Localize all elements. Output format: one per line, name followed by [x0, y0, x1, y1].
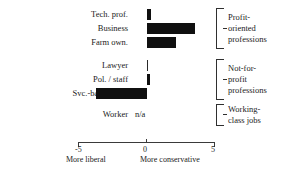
- x-tick-label-zero: 0: [143, 145, 147, 154]
- bar-track: [78, 73, 215, 86]
- group-label-line: Not-for-: [228, 63, 267, 74]
- bar-tech-prof: [147, 9, 151, 20]
- bar-track: [78, 59, 215, 72]
- bar-lawyer: [147, 60, 148, 71]
- bar-track: [78, 8, 215, 21]
- axis-caption-conservative: More conservative: [140, 155, 200, 164]
- chart-figure: Tech. prof. Business Farm own. Lawyer Po…: [0, 0, 285, 175]
- group-label-profit-oriented: Profit- oriented professions: [228, 12, 267, 45]
- group-label-line: class jobs: [228, 115, 261, 126]
- bar-svc-based-prof: [96, 88, 147, 99]
- axis-caption-liberal: More liberal: [66, 155, 106, 164]
- group-label-working-class: Working- class jobs: [228, 104, 261, 126]
- bar-business: [147, 23, 195, 34]
- group-label-line: Working-: [228, 104, 261, 115]
- bar-pol-staff: [147, 74, 150, 85]
- bar-track: n/a: [78, 108, 215, 121]
- group-label-line: oriented: [228, 23, 267, 34]
- value-na-label: n/a: [135, 108, 145, 121]
- brace-tip-not-for-profit: [223, 79, 227, 80]
- group-label-line: profit: [228, 74, 267, 85]
- brace-tip-working-class: [223, 114, 227, 115]
- bar-track: [78, 87, 215, 100]
- group-label-line: Profit-: [228, 12, 267, 23]
- x-tick-label-min: -5: [75, 145, 82, 154]
- group-label-not-for-profit: Not-for- profit professions: [228, 63, 267, 96]
- brace-tip-profit-oriented: [223, 28, 227, 29]
- x-axis-tick-zero: [146, 139, 147, 143]
- group-label-line: professions: [228, 34, 267, 45]
- bar-track: [78, 22, 215, 35]
- bar-farm-own: [147, 37, 176, 48]
- x-tick-label-max: 5: [211, 145, 215, 154]
- group-label-line: professions: [228, 85, 267, 96]
- bar-track: [78, 36, 215, 49]
- brace-working-class: [216, 104, 224, 126]
